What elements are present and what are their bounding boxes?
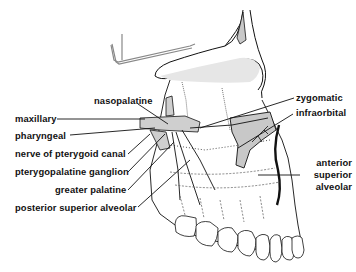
label-pharyngeal: pharyngeal — [15, 131, 66, 141]
label-pterygopalatine-ganglion: pterygopalatine ganglion — [15, 167, 129, 177]
leader-ganglion — [128, 134, 165, 172]
label-anterior-superior-alveolar-line3: alveolar — [300, 182, 352, 192]
label-nerve-of-pterygoid-canal: nerve of pterygoid canal — [15, 149, 126, 159]
nasal-bone-sketch — [111, 34, 195, 64]
label-infraorbital: infraorbital — [296, 108, 346, 118]
anatomy-diagram: nasopalatine zygomatic maxillary infraor… — [0, 0, 356, 272]
leader-psa — [138, 160, 190, 207]
label-anterior-superior-alveolar-line1: anterior — [300, 158, 352, 168]
anterior-nasal-edge — [275, 125, 280, 205]
leader-nerve-pterygoid — [128, 134, 150, 154]
label-greater-palatine: greater palatine — [55, 185, 126, 195]
label-anterior-superior-alveolar-line2: superior — [300, 170, 352, 180]
orbit-outline — [155, 10, 266, 98]
label-nasopalatine: nasopalatine — [94, 96, 153, 106]
orbital-floor-shade — [160, 58, 260, 83]
label-maxillary: maxillary — [15, 114, 57, 124]
teeth — [175, 216, 304, 262]
label-zygomatic: zygomatic — [296, 93, 343, 103]
leader-pharyngeal — [70, 128, 155, 135]
label-posterior-superior-alveolar: posterior superior alveolar — [15, 203, 137, 213]
dental-plexus — [170, 168, 280, 222]
